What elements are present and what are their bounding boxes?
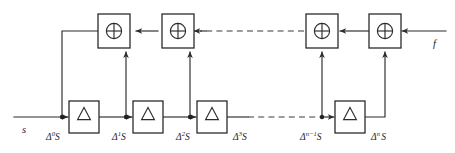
delta-block-2: [133, 101, 163, 133]
delta-3-box: [197, 101, 227, 133]
wire-deltan-to-xor4: [365, 52, 385, 117]
label-tap-2: Δ2S: [175, 130, 190, 142]
label-tap-n-minus-1: Δn−1S: [299, 130, 322, 142]
tap-2-signal: S: [185, 131, 190, 142]
delta-block-1: [69, 101, 99, 133]
xor-gate-2: [162, 14, 194, 48]
label-tap-1: Δ1S: [111, 130, 126, 142]
delta-block-3: [197, 101, 227, 133]
tap-1-signal: S: [121, 131, 126, 142]
block-diagram-figure: s f Δ0S Δ1S Δ2S Δ3S Δn−1S: [0, 0, 455, 153]
tap-n-signal: S: [381, 131, 386, 142]
diagram-canvas: s f Δ0S Δ1S Δ2S Δ3S Δn−1S: [0, 0, 455, 153]
tap-n-sup: n: [377, 130, 381, 137]
xor-icon: [170, 23, 185, 38]
svg-text:Δ3S: Δ3S: [232, 130, 247, 142]
xor-icon: [377, 23, 392, 38]
label-feedback-f: f: [433, 38, 438, 49]
xor-icon: [314, 23, 329, 38]
svg-text:Δ2S: Δ2S: [175, 130, 190, 142]
tap-n1-sup: n−1: [306, 130, 317, 137]
tap-3-signal: S: [242, 131, 247, 142]
xor-icon: [106, 23, 121, 38]
delta-block-4: [335, 101, 365, 133]
label-tap-0: Δ0S: [45, 130, 60, 142]
delta-2-box: [133, 101, 163, 133]
label-tap-3: Δ3S: [232, 130, 247, 142]
svg-text:Δ0S: Δ0S: [45, 130, 60, 142]
svg-text:Δn−1S: Δn−1S: [299, 130, 322, 142]
tap-n1-signal: S: [317, 131, 322, 142]
delta-4-box: [335, 101, 365, 133]
delta-1-box: [69, 101, 99, 133]
xor-gate-4: [369, 14, 401, 48]
xor-gate-1: [98, 14, 130, 48]
svg-text:Δ1S: Δ1S: [111, 130, 126, 142]
svg-text:ΔnS: ΔnS: [370, 130, 386, 142]
label-input-s: s: [22, 124, 26, 135]
label-tap-n: ΔnS: [370, 130, 386, 142]
tap-0-signal: S: [55, 131, 60, 142]
xor-gate-3: [306, 14, 338, 48]
